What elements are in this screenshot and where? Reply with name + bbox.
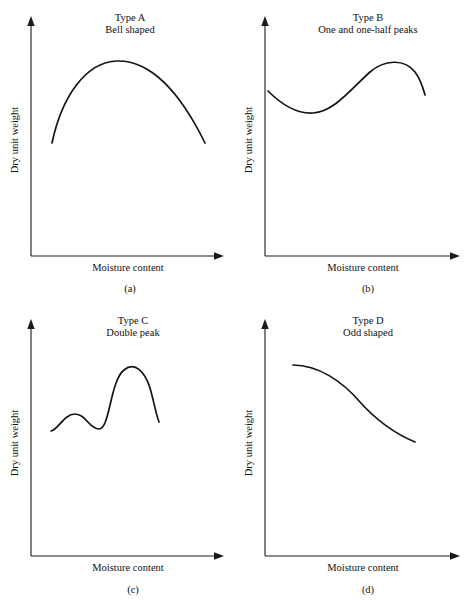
panel-c-title-line1: Type C xyxy=(118,315,148,326)
panel-b-title-line2: One and one-half peaks xyxy=(318,24,417,35)
panel-b: Type B One and one-half peaks Moisture c… xyxy=(237,0,474,303)
panel-d: Type D Odd shaped Moisture content Dry u… xyxy=(237,303,474,606)
panel-a-title-line2: Bell shaped xyxy=(105,24,155,35)
panel-a: Type A Bell shaped Moisture content Dry … xyxy=(0,0,237,303)
panel-a-caption: (a) xyxy=(124,283,136,295)
panel-a-title-line1: Type A xyxy=(115,12,146,23)
panel-d-xlabel: Moisture content xyxy=(327,562,399,573)
y-axis-arrowhead-a xyxy=(27,16,34,26)
panel-c: Type C Double peak Moisture content Dry … xyxy=(0,303,237,606)
x-axis-arrowhead-b xyxy=(450,252,460,259)
panel-c-xlabel: Moisture content xyxy=(92,562,164,573)
panel-b-title-line1: Type B xyxy=(353,12,383,23)
panel-b-caption: (b) xyxy=(362,283,375,295)
y-axis-arrowhead-c xyxy=(27,319,34,329)
panel-b-ylabel: Dry unit weight xyxy=(243,107,254,174)
y-axis-arrowhead-d xyxy=(261,319,268,329)
panel-d-title-line2: Odd shaped xyxy=(343,327,394,338)
y-axis-arrowhead-b xyxy=(261,16,268,26)
x-axis-arrowhead-a xyxy=(214,252,224,259)
panel-d-caption: (d) xyxy=(362,584,375,596)
panel-d-title-line1: Type D xyxy=(352,315,383,326)
compaction-curve-types-figure: Type A Bell shaped Moisture content Dry … xyxy=(0,0,474,606)
x-axis-arrowhead-c xyxy=(214,552,224,559)
curve-type-c xyxy=(51,367,159,431)
panel-c-ylabel: Dry unit weight xyxy=(9,410,20,477)
panel-a-ylabel: Dry unit weight xyxy=(9,107,20,174)
panel-c-caption: (c) xyxy=(127,584,139,596)
panel-c-title-line2: Double peak xyxy=(106,327,160,338)
curve-type-b xyxy=(268,62,425,113)
panel-d-ylabel: Dry unit weight xyxy=(243,410,254,477)
x-axis-arrowhead-d xyxy=(450,552,460,559)
panel-b-xlabel: Moisture content xyxy=(327,262,399,273)
curve-type-d xyxy=(293,365,415,442)
curve-type-a xyxy=(52,61,205,143)
panel-a-xlabel: Moisture content xyxy=(92,262,164,273)
